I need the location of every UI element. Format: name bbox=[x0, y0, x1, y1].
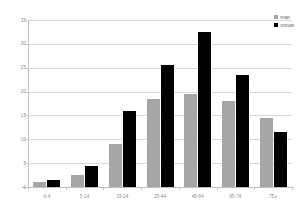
legend-item-vrouw: vrouw bbox=[274, 22, 294, 28]
bar-man bbox=[109, 144, 122, 187]
y-axis-tick-label: 10 bbox=[4, 137, 26, 142]
bar-vrouw bbox=[85, 166, 98, 187]
bar-group bbox=[141, 20, 179, 187]
legend: manvrouw bbox=[274, 14, 294, 28]
y-axis-tick-label: 30 bbox=[4, 41, 26, 46]
bar-group bbox=[254, 20, 292, 187]
bar-man bbox=[260, 118, 273, 187]
bar-group bbox=[179, 20, 217, 187]
x-axis-tick-label: 45-64 bbox=[179, 194, 217, 206]
bar-vrouw bbox=[47, 180, 60, 187]
x-axis-tickmark bbox=[28, 187, 29, 190]
bar-man bbox=[71, 175, 84, 187]
bar-man bbox=[184, 94, 197, 187]
x-axis-tickmark bbox=[103, 187, 104, 190]
y-axis-tick-label: 25 bbox=[4, 65, 26, 70]
x-axis-tick-label: 25-44 bbox=[141, 194, 179, 206]
bar-man bbox=[147, 99, 160, 187]
x-axis-tick-label: 15-24 bbox=[103, 194, 141, 206]
legend-swatch-icon bbox=[274, 15, 278, 19]
legend-swatch-icon bbox=[274, 23, 278, 27]
y-axis-tick-label: 15 bbox=[4, 113, 26, 118]
legend-item-man: man bbox=[274, 14, 294, 20]
y-axis-tick-label: 20 bbox=[4, 89, 26, 94]
x-axis-labels: 0-45-1415-2425-4445-6465-7475+ bbox=[28, 194, 292, 206]
y-axis-tick-label: 35 bbox=[4, 18, 26, 23]
x-axis-tickmark bbox=[141, 187, 142, 190]
bar-groups bbox=[28, 20, 292, 187]
bar-group bbox=[28, 20, 66, 187]
plot-area bbox=[28, 20, 292, 187]
x-axis-tickmark bbox=[217, 187, 218, 190]
bar-group bbox=[103, 20, 141, 187]
bar-vrouw bbox=[236, 75, 249, 187]
x-axis-tickmark bbox=[66, 187, 67, 190]
bar-vrouw bbox=[123, 111, 136, 187]
bar-chart: 05101520253035 0-45-1415-2425-4445-6465-… bbox=[0, 0, 300, 214]
gridline bbox=[28, 187, 292, 188]
legend-label: vrouw bbox=[280, 22, 294, 28]
x-axis-tick-label: 5-14 bbox=[66, 194, 104, 206]
x-axis-tickmark bbox=[292, 187, 293, 190]
bar-man bbox=[33, 182, 46, 187]
x-axis-tick-label: 65-74 bbox=[217, 194, 255, 206]
bar-vrouw bbox=[161, 65, 174, 187]
x-axis-tick-label: 75+ bbox=[254, 194, 292, 206]
y-axis: 05101520253035 bbox=[0, 0, 26, 214]
bar-group bbox=[217, 20, 255, 187]
x-axis-tick-label: 0-4 bbox=[28, 194, 66, 206]
y-axis-tick-label: 5 bbox=[4, 161, 26, 166]
bar-group bbox=[66, 20, 104, 187]
x-axis-tickmark bbox=[254, 187, 255, 190]
x-axis-tickmark bbox=[179, 187, 180, 190]
bar-vrouw bbox=[274, 132, 287, 187]
legend-label: man bbox=[280, 14, 290, 20]
bar-vrouw bbox=[198, 32, 211, 187]
bar-man bbox=[222, 101, 235, 187]
